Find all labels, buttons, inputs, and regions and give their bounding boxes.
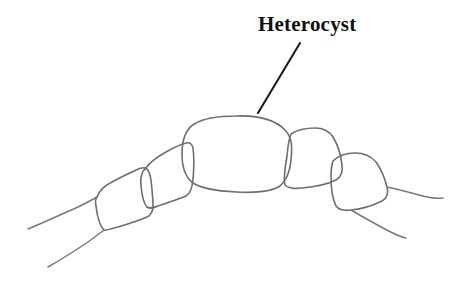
filament-tail-right-lower xyxy=(351,210,406,238)
vegetative-cell-left-outer xyxy=(96,168,153,231)
filament-tail-left-upper xyxy=(28,197,97,229)
heterocyst-cell xyxy=(182,116,292,192)
vegetative-cell-right-inner xyxy=(284,128,342,188)
heterocyst-label: Heterocyst xyxy=(258,13,356,36)
filament-tail-left-lower xyxy=(48,230,104,267)
filament-diagram xyxy=(0,0,454,281)
vegetative-cell-right-outer xyxy=(331,153,388,210)
leader-line xyxy=(258,43,300,113)
heterocyst-figure: Heterocyst xyxy=(0,0,454,281)
filament-tail-right-upper xyxy=(387,187,443,198)
